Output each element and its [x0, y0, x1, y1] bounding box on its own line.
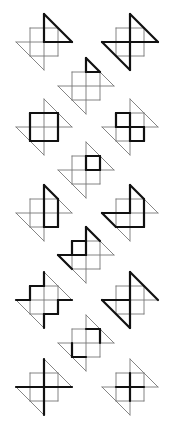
highlighted-shape: [58, 227, 100, 269]
highlighted-shape: [86, 58, 100, 72]
highlighted-shape: [16, 359, 72, 415]
pinwheel-figure-7: [16, 185, 72, 241]
pinwheel-figure-11: [102, 272, 158, 328]
pinwheel-figure-1: [16, 14, 72, 70]
highlighted-shape: [116, 373, 144, 401]
pinwheel-figure-14: [102, 359, 158, 415]
pinwheel-figure-8: [102, 185, 158, 241]
base-grid: [16, 99, 72, 155]
highlighted-shape: [86, 156, 100, 170]
highlighted-shape: [102, 14, 158, 70]
base-grid: [58, 315, 114, 371]
pinwheel-figure-6: [58, 142, 114, 198]
pinwheel-figure-10: [16, 272, 72, 328]
pinwheel-figure-12: [58, 315, 114, 371]
highlighted-shape: [44, 185, 58, 227]
pinwheel-figure-5: [102, 99, 158, 155]
pinwheel-figure-9: [58, 227, 114, 283]
pinwheel-figure-3: [58, 58, 114, 114]
pinwheel-figure-2: [102, 14, 158, 70]
pinwheel-figure-13: [16, 359, 72, 415]
highlighted-shape: [116, 113, 144, 141]
pinwheel-diagram: [0, 0, 171, 444]
highlighted-shape: [102, 185, 144, 227]
pinwheel-figure-4: [16, 99, 72, 155]
